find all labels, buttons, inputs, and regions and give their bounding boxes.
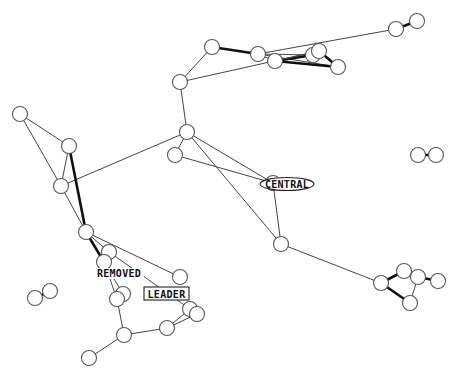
graph-node [312, 44, 327, 59]
graph-node [173, 270, 188, 285]
removed-label: REMOVED [94, 268, 144, 279]
graph-node [54, 179, 69, 194]
graph-edge [187, 132, 273, 183]
graph-node [397, 264, 412, 279]
graph-node [79, 225, 94, 240]
removed-label-text: REMOVED [97, 268, 141, 279]
graph-edge [180, 51, 319, 82]
graph-edge [20, 114, 69, 146]
graph-node [411, 270, 426, 285]
central-label: CENTRAL [260, 178, 314, 191]
central-label-text: CENTRAL [265, 179, 309, 190]
leader-label: LEADER [144, 287, 189, 300]
graph-node [411, 148, 426, 163]
graph-node [274, 237, 289, 252]
graph-node [251, 47, 266, 62]
graph-edge [20, 114, 61, 186]
graph-node [431, 274, 446, 289]
graph-node [117, 328, 132, 343]
edge-layer [20, 21, 438, 358]
graph-node [389, 22, 404, 37]
graph-node [110, 292, 125, 307]
graph-node [403, 296, 418, 311]
graph-node [205, 40, 220, 55]
leader-label-text: LEADER [148, 289, 187, 300]
graph-node [43, 284, 58, 299]
graph-edge [281, 244, 381, 283]
graph-node [160, 321, 175, 336]
graph-edge [273, 183, 281, 244]
graph-node [331, 60, 346, 75]
graph-node [410, 14, 425, 29]
graph-node [180, 125, 195, 140]
graph-node [268, 54, 283, 69]
graph-node [190, 307, 205, 322]
graph-node [429, 148, 444, 163]
graph-edge [69, 146, 86, 232]
network-diagram: CENTRAL REMOVED LEADER [0, 0, 459, 384]
graph-edge [175, 155, 273, 183]
graph-node [173, 75, 188, 90]
graph-node [168, 148, 183, 163]
graph-node [82, 351, 97, 366]
graph-node [28, 291, 43, 306]
graph-node [374, 276, 389, 291]
graph-node [62, 139, 77, 154]
graph-node [13, 107, 28, 122]
